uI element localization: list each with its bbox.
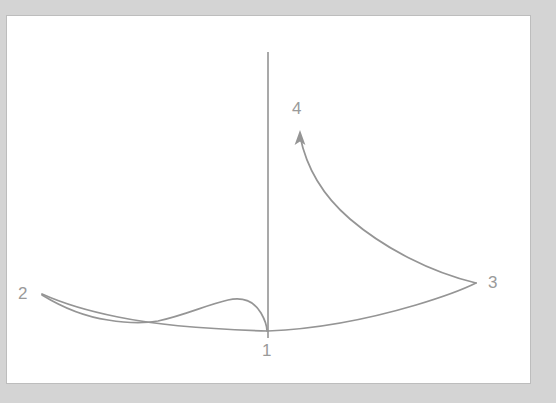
node-label-4: 4: [292, 100, 301, 117]
node-label-1: 1: [262, 342, 271, 359]
figure-root: 1 2 3 4: [0, 0, 556, 403]
diagram-canvas: [7, 16, 530, 383]
node-label-3: 3: [488, 274, 497, 291]
node-label-2: 2: [18, 285, 27, 302]
